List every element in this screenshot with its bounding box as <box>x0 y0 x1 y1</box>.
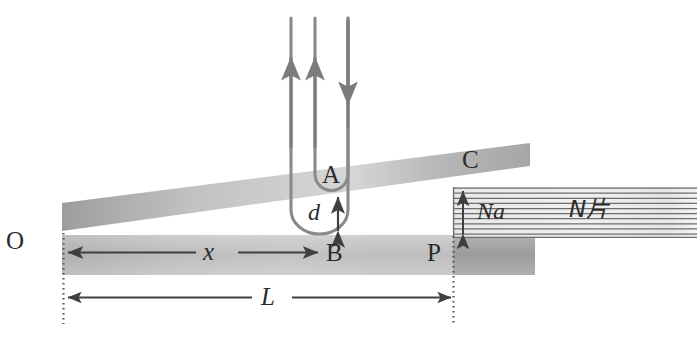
label-point-b: B <box>326 240 343 265</box>
label-gap-d: d <box>308 200 320 224</box>
force-arrows <box>291 20 348 148</box>
label-stack-height: Na <box>477 199 505 223</box>
label-point-a: A <box>322 162 340 187</box>
physics-diagram-figure: O A B C P d x L Na N片 <box>0 0 697 344</box>
label-length-l: L <box>261 284 275 309</box>
label-point-c: C <box>462 147 479 172</box>
label-origin: O <box>6 228 24 253</box>
label-point-p: P <box>427 240 441 265</box>
horizontal-beam <box>62 235 535 275</box>
label-distance-x: x <box>203 239 214 264</box>
label-plate-count: N片 <box>569 198 609 221</box>
diagram-canvas <box>0 0 697 344</box>
